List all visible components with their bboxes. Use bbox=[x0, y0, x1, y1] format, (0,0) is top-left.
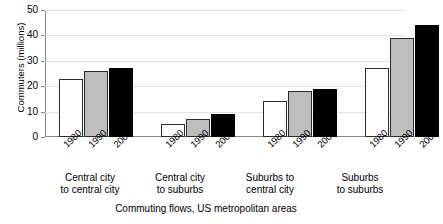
x-tick-label-year: 1990 bbox=[390, 139, 414, 173]
bar-group bbox=[351, 10, 443, 137]
bar bbox=[390, 38, 414, 137]
year-group: 198019902000 bbox=[147, 139, 249, 173]
bar bbox=[84, 71, 108, 137]
x-category-label: Central cityto central city bbox=[45, 172, 135, 196]
year-group: 198019902000 bbox=[45, 139, 147, 173]
x-tick-label-year: 2000 bbox=[211, 139, 235, 173]
y-tick-label-0: 0 bbox=[32, 132, 38, 142]
x-tick-label-year: 1980 bbox=[59, 139, 83, 173]
x-category-label: Central cityto suburbs bbox=[135, 172, 225, 196]
y-tick-label-40: 40 bbox=[27, 30, 38, 40]
x-tick-label-year: 1990 bbox=[84, 139, 108, 173]
y-tick-label-50: 50 bbox=[27, 5, 38, 15]
bar bbox=[59, 79, 83, 137]
x-tick-label-year: 1980 bbox=[161, 139, 185, 173]
bar-group bbox=[147, 10, 249, 137]
bar bbox=[365, 68, 389, 137]
x-category-label: Suburbs tocentral city bbox=[225, 172, 315, 196]
bar-group bbox=[249, 10, 351, 137]
y-tick-label-30: 30 bbox=[27, 56, 38, 66]
x-tick-label-year: 1990 bbox=[288, 139, 312, 173]
x-tick-label-year: 1980 bbox=[365, 139, 389, 173]
x-axis-title: Commuting flows, US metropolitan areas bbox=[0, 203, 412, 214]
bar-group bbox=[45, 10, 147, 137]
x-tick-labels-years: 1980199020001980199020001980199020001980… bbox=[45, 139, 405, 173]
plot-area: 50 40 30 20 10 0 bbox=[45, 10, 405, 137]
y-axis-title: Commuters (millions) bbox=[15, 3, 26, 133]
tick-mark-0 bbox=[41, 137, 45, 138]
x-tick-label-year: 1990 bbox=[186, 139, 210, 173]
year-group: 198019902000 bbox=[351, 139, 443, 173]
bar-groups bbox=[45, 10, 405, 137]
y-tick-label-10: 10 bbox=[27, 107, 38, 117]
x-tick-label-year: 1980 bbox=[263, 139, 287, 173]
bar bbox=[109, 68, 133, 137]
x-category-label: Suburbsto suburbs bbox=[315, 172, 405, 196]
x-tick-label-year: 2000 bbox=[109, 139, 133, 173]
year-group: 198019902000 bbox=[249, 139, 351, 173]
x-category-labels: Central cityto central cityCentral cityt… bbox=[45, 172, 405, 196]
x-tick-label-year: 2000 bbox=[415, 139, 439, 173]
bar bbox=[415, 25, 439, 137]
x-tick-label-year: 2000 bbox=[313, 139, 337, 173]
y-tick-label-20: 20 bbox=[27, 81, 38, 91]
